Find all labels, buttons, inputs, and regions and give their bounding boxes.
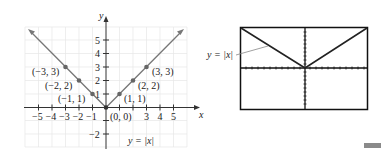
x-tick-label: 3: [144, 111, 149, 122]
equation-label-right: y = |x|: [206, 49, 233, 60]
x-tick-label: −4: [46, 111, 57, 122]
left-graph: y x −5 −4 −3 −2 −1 3 4 5 5 4 3 2 1 −2: [24, 10, 204, 149]
point-neg3-3: [63, 65, 68, 70]
point-0-0: [104, 105, 109, 110]
y-tick-label: 5: [95, 35, 100, 46]
x-tick-label: −1: [86, 111, 97, 122]
point-label: (3, 3): [152, 66, 174, 78]
point-label: (−1, 1): [58, 93, 85, 105]
point-label: (−2, 2): [45, 80, 72, 92]
point-neg2-2: [77, 78, 82, 83]
x-tick-label: −2: [73, 111, 84, 122]
figure-canvas: y x −5 −4 −3 −2 −1 3 4 5 5 4 3 2 1 −2: [0, 0, 381, 158]
x-tick-label: 4: [158, 111, 163, 122]
y-tick-label: −2: [89, 129, 100, 140]
right-graph: y = |x|: [206, 28, 368, 110]
point-2-2: [131, 78, 136, 83]
point-label: (0, 0): [110, 111, 132, 123]
y-tick-label: 2: [95, 75, 100, 86]
point-label: (1, 1): [124, 93, 146, 105]
y-axis-arrow-icon: [104, 16, 109, 22]
equation-label-left: y = |x|: [127, 135, 154, 146]
gray-bar: [364, 143, 381, 148]
point-3-3: [144, 65, 149, 70]
point-1-1: [117, 92, 122, 97]
y-axis: [103, 16, 109, 149]
y-tick-label: 3: [95, 62, 100, 73]
y-axis-label: y: [98, 10, 104, 21]
x-tick-label: −3: [59, 111, 70, 122]
x-tick-label: −5: [32, 111, 43, 122]
x-tick-label: 5: [171, 111, 176, 122]
point-neg1-1: [90, 92, 95, 97]
point-label: (2, 2): [138, 80, 160, 92]
x-axis: [24, 105, 200, 111]
y-tick-label: 4: [95, 48, 100, 59]
y-tick-labels: 5 4 3 2 1 −2: [89, 35, 100, 140]
point-label: (−3, 3): [32, 66, 59, 78]
x-axis-label: x: [198, 109, 204, 120]
